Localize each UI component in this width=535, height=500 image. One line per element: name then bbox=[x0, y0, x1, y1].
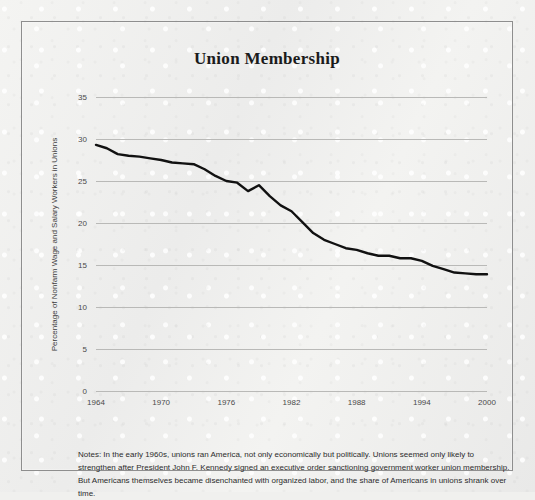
notes-text: Notes: In the early 1960s, unions ran Am… bbox=[78, 449, 510, 500]
x-tick-label-1988: 1988 bbox=[348, 398, 366, 407]
y-axis-title: Percentage of Nonfarm Wage and Salary Wo… bbox=[48, 97, 62, 391]
figure-frame: Union Membership Percentage of Nonfarm W… bbox=[21, 21, 513, 471]
y-tick-label-25: 25 bbox=[78, 177, 87, 186]
union-membership-line bbox=[96, 145, 487, 274]
gridline-y-0 bbox=[96, 391, 487, 392]
y-tick-label-30: 30 bbox=[78, 135, 87, 144]
x-tick-label-1982: 1982 bbox=[283, 398, 301, 407]
y-tick-label-0: 0 bbox=[83, 387, 87, 396]
y-tick-label-35: 35 bbox=[78, 93, 87, 102]
y-tick-label-15: 15 bbox=[78, 261, 87, 270]
y-tick-label-10: 10 bbox=[78, 303, 87, 312]
y-tick-label-5: 5 bbox=[83, 345, 87, 354]
line-series-svg bbox=[96, 97, 487, 391]
x-tick-label-1964: 1964 bbox=[87, 398, 105, 407]
x-tick-label-2000: 2000 bbox=[478, 398, 496, 407]
y-tick-label-20: 20 bbox=[78, 219, 87, 228]
x-tick-label-1976: 1976 bbox=[217, 398, 235, 407]
x-tick-label-1994: 1994 bbox=[413, 398, 431, 407]
chart-title: Union Membership bbox=[22, 49, 512, 69]
x-tick-label-1970: 1970 bbox=[152, 398, 170, 407]
plot-area: 05101520253035 1964197019761982198819942… bbox=[96, 97, 487, 391]
y-axis-title-text: Percentage of Nonfarm Wage and Salary Wo… bbox=[51, 137, 60, 350]
